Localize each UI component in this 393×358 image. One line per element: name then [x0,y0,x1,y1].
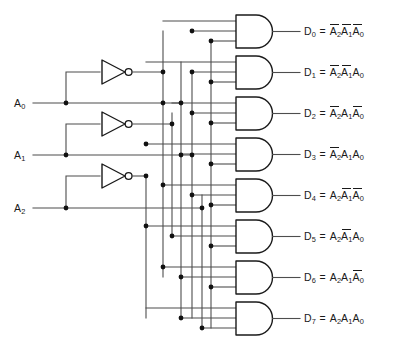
junction-d3-bot [209,162,214,167]
junction-dots [64,29,214,331]
junction-d4-mid [190,193,195,198]
and-gate-d3 [236,138,300,171]
output-label-d1: D1 = A2A1A0 [304,67,364,78]
junction-a0-bus-103 [179,101,184,106]
junction-a1bar-bus [170,122,175,127]
inverter-branches [66,72,100,208]
junction-a0bar-bus [161,70,166,75]
junction-a0-103b [161,101,166,106]
input-lines [33,103,202,208]
and-gate-d0 [236,15,300,48]
junction-a0-tap [64,101,69,106]
gate-feeds-d0 [163,21,236,41]
junction-d5-mid [170,234,175,239]
junction-d2-bot [209,121,214,126]
input-label-a2: A2 [14,203,25,214]
output-label-d6: D6 = A2A1A0 [304,272,364,283]
junction-a2-tap [64,206,69,211]
output-label-d4: D4 = A2A1A0 [304,190,364,201]
gate-feeds-d6 [163,267,236,287]
and-gate-d4 [236,179,300,212]
inverter-a2 [102,164,146,188]
output-label-d2: D2 = A2A1A0 [304,108,364,119]
branch-a1-to-inverter [66,124,100,155]
junction-d1-bot [209,80,214,85]
junction-a2bar-bus [144,174,149,179]
output-label-d5: D5 = A2A1A0 [304,231,364,242]
junction-d4-bot [209,203,214,208]
junction-a1-bus-155 [190,153,195,158]
gate-feeds-d5 [146,226,236,246]
branch-a2-to-inverter [66,176,100,208]
output-label-d0: D0 = A2A1A0 [304,26,364,37]
junction-d0-mid [190,29,195,34]
and-gate-d5 [236,220,300,253]
and-gate-d6 [236,261,300,294]
logic-diagram-svg [0,0,393,358]
gate-feeds-d4 [163,185,236,205]
output-label-d3: D3 = A2A1A0 [304,149,364,160]
junction-a1-155b [179,153,184,158]
and-gate-d1 [236,56,300,89]
output-label-d7: D7 = A2A1A0 [304,313,364,324]
input-label-a1: A1 [14,150,25,161]
junction-d0-bot [209,39,214,44]
junction-d6-top [161,265,166,270]
junction-d1-mid [190,70,195,75]
inverter-a1 [102,112,172,136]
branch-a0-to-inverter [66,72,100,103]
input-label-a0: A0 [14,98,25,109]
junction-d5-bot [209,244,214,249]
vertical-buses [146,31,211,328]
and-gate-d2 [236,97,300,130]
junction-d3-top [144,142,149,147]
junction-d4-top [161,183,166,188]
junction-d7-mid [179,316,184,321]
junction-d6-bot [209,285,214,290]
gate-feeds-d2 [172,103,236,123]
and-gate-d7 [236,302,300,335]
junction-a2-bus-208 [200,206,205,211]
junction-d5-top [144,224,149,229]
junction-a1-tap [64,153,69,158]
inverter-a0 [102,60,163,84]
gate-feeds-d7 [146,308,236,328]
decoder-diagram-canvas: A0 A1 A2 D0 = A2A1A0 D1 = A2A1A0 D2 = A2… [0,0,393,358]
junction-d2-mid [190,111,195,116]
junction-d7-bot [200,326,205,331]
junction-d6-mid [179,275,184,280]
